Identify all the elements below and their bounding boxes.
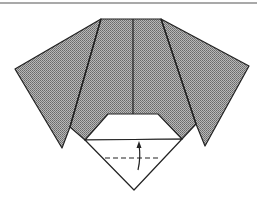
nose-triangle	[85, 139, 182, 190]
